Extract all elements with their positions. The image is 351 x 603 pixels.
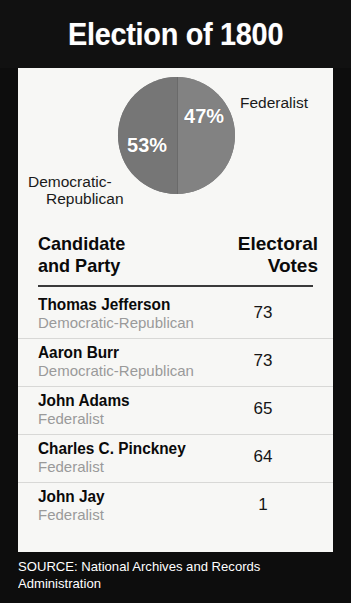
- pie-slice-federalist: [177, 77, 236, 194]
- column-header-votes-line2: Votes: [268, 255, 318, 276]
- pie-chart: 53% 47% Federalist Democratic- Republica…: [18, 68, 333, 223]
- pie-value-federalist: 47%: [184, 105, 224, 126]
- electoral-votes: 73: [228, 303, 298, 323]
- table-row: Charles C. Pinckney Federalist 64: [18, 435, 333, 483]
- table-row: John Adams Federalist 65: [18, 387, 333, 435]
- candidate-party: Federalist: [38, 506, 107, 524]
- electoral-votes: 73: [228, 351, 298, 371]
- candidate-cell: Charles C. Pinckney Federalist: [38, 439, 192, 476]
- candidate-name: Charles C. Pinckney: [38, 439, 186, 458]
- electoral-votes: 65: [228, 399, 298, 419]
- column-header-candidate-line2: and Party: [38, 255, 120, 276]
- table-row: John Jay Federalist 1: [18, 483, 333, 530]
- title-bar: Election of 1800: [0, 0, 351, 68]
- column-header-votes: Electoral Votes: [213, 233, 318, 277]
- table-row: Thomas Jefferson Democratic-Republican 7…: [18, 291, 333, 339]
- candidate-name: John Adams: [38, 391, 130, 410]
- candidate-party: Federalist: [38, 458, 192, 476]
- header-divider: [38, 285, 313, 287]
- table-row: Aaron Burr Democratic-Republican 73: [18, 339, 333, 387]
- pie-value-democratic-republican: 53%: [127, 134, 167, 155]
- candidate-party: Federalist: [38, 410, 133, 428]
- candidate-name: Aaron Burr: [38, 343, 188, 362]
- column-header-candidate-line1: Candidate: [38, 233, 125, 254]
- column-header-votes-line1: Electoral: [238, 233, 318, 254]
- candidate-party: Democratic-Republican: [38, 362, 194, 380]
- candidate-cell: Thomas Jefferson Democratic-Republican: [38, 295, 194, 332]
- electoral-votes: 1: [228, 495, 298, 515]
- source-line1: SOURCE: National Archives and Records: [18, 559, 260, 574]
- content-card: 53% 47% Federalist Democratic- Republica…: [18, 68, 333, 552]
- column-header-candidate: Candidate and Party: [38, 233, 125, 277]
- electoral-votes: 64: [228, 447, 298, 467]
- pie-label-federalist: Federalist: [240, 94, 308, 111]
- source-line2: Administration: [18, 575, 324, 592]
- candidate-cell: John Adams Federalist: [38, 391, 133, 428]
- candidate-cell: Aaron Burr Democratic-Republican: [38, 343, 194, 380]
- table-header: Candidate and Party Electoral Votes: [18, 223, 333, 291]
- election-infographic: Election of 1800 53% 47% Federalist Demo…: [0, 0, 351, 603]
- candidate-cell: John Jay Federalist: [38, 487, 107, 524]
- source-note: SOURCE: National Archives and Records Ad…: [18, 558, 324, 592]
- pie-label-demrep-line1: Democratic-: [28, 173, 112, 190]
- results-table: Candidate and Party Electoral Votes Thom…: [18, 223, 333, 530]
- page-title: Election of 1800: [68, 19, 283, 50]
- pie-divider: [177, 77, 178, 194]
- candidate-party: Democratic-Republican: [38, 314, 194, 332]
- pie-label-demrep-line2: Republican: [28, 190, 124, 207]
- candidate-name: Thomas Jefferson: [38, 295, 188, 314]
- table-body: Thomas Jefferson Democratic-Republican 7…: [18, 291, 333, 530]
- pie-label-democratic-republican: Democratic- Republican: [28, 173, 124, 207]
- candidate-name: John Jay: [38, 487, 105, 506]
